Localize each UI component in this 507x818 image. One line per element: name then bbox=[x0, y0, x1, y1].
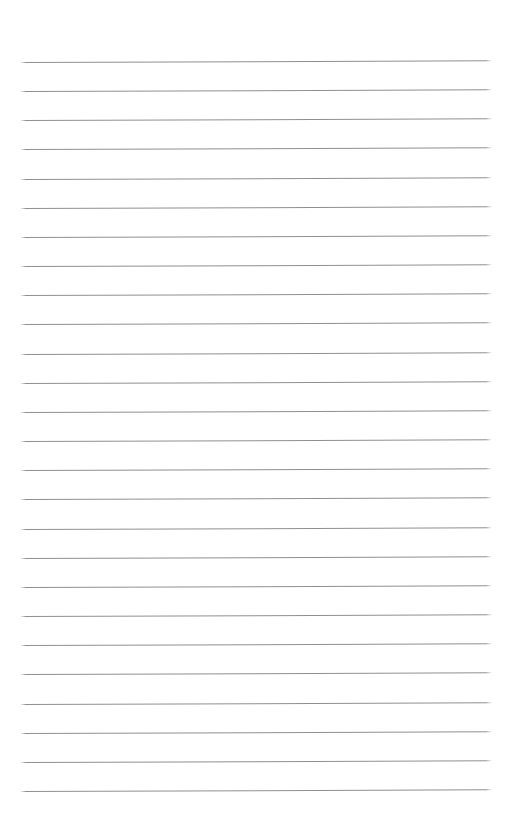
ruled-line bbox=[20, 760, 492, 763]
ruled-lines bbox=[0, 0, 507, 818]
ruled-line bbox=[20, 90, 492, 93]
ruled-line bbox=[20, 556, 492, 559]
ruled-line bbox=[20, 498, 492, 501]
ruled-line bbox=[20, 731, 492, 734]
ruled-line bbox=[20, 439, 492, 442]
ruled-line bbox=[20, 148, 492, 151]
ruled-line bbox=[20, 702, 492, 705]
ruled-line bbox=[20, 614, 492, 617]
ruled-line bbox=[20, 352, 492, 355]
ruled-line bbox=[20, 469, 492, 472]
ruled-line bbox=[20, 294, 492, 297]
ruled-line bbox=[20, 381, 492, 384]
ruled-line bbox=[20, 119, 492, 122]
ruled-line bbox=[20, 60, 492, 63]
ruled-line bbox=[20, 527, 492, 530]
ruled-line bbox=[20, 789, 492, 792]
ruled-line bbox=[20, 410, 492, 413]
ruled-line bbox=[20, 644, 492, 647]
ruled-line bbox=[20, 177, 492, 180]
lined-paper-page bbox=[0, 0, 507, 818]
ruled-line bbox=[20, 323, 492, 326]
ruled-line bbox=[20, 206, 492, 209]
ruled-line bbox=[20, 673, 492, 676]
ruled-line bbox=[20, 585, 492, 588]
ruled-line bbox=[20, 264, 492, 267]
ruled-line bbox=[20, 235, 492, 238]
